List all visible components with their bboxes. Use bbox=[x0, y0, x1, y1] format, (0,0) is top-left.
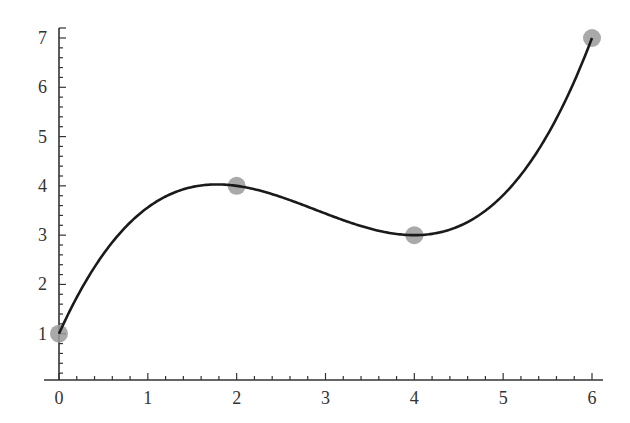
y-tick-label: 7 bbox=[38, 28, 47, 48]
y-tick-label: 2 bbox=[38, 274, 47, 294]
x-tick-label: 2 bbox=[232, 388, 241, 408]
y-tick-label: 6 bbox=[38, 77, 47, 97]
x-tick-label: 6 bbox=[588, 388, 597, 408]
x-tick-label: 3 bbox=[321, 388, 330, 408]
x-tick-label: 1 bbox=[143, 388, 152, 408]
tick-marks bbox=[59, 28, 592, 380]
y-tick-label: 3 bbox=[38, 225, 47, 245]
data-point bbox=[50, 325, 68, 343]
x-tick-label: 4 bbox=[410, 388, 419, 408]
x-tick-label: 5 bbox=[499, 388, 508, 408]
y-tick-label: 4 bbox=[38, 176, 47, 196]
x-tick-label: 0 bbox=[55, 388, 64, 408]
chart: 01234561234567 bbox=[0, 0, 630, 423]
y-tick-label: 1 bbox=[38, 324, 47, 344]
y-tick-label: 5 bbox=[38, 127, 47, 147]
data-points bbox=[50, 29, 601, 343]
fitted-curve bbox=[59, 38, 592, 334]
axes bbox=[44, 28, 603, 380]
tick-labels: 01234561234567 bbox=[38, 28, 597, 408]
